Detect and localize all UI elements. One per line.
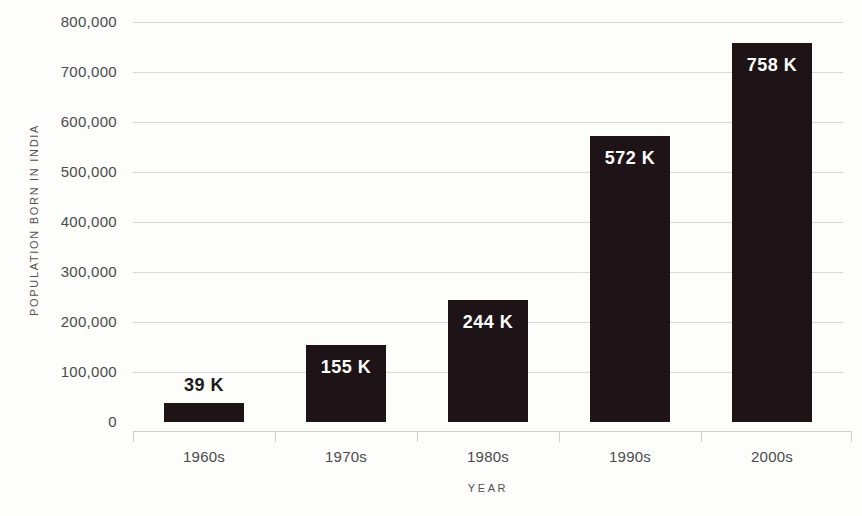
bar-group[interactable]: 572 K (559, 22, 701, 422)
bar[interactable] (164, 403, 244, 423)
x-axis-tick (851, 431, 852, 442)
y-axis-tick-label: 700,000 (7, 63, 117, 80)
x-axis-tick (275, 431, 276, 442)
y-axis-tick-label: 300,000 (7, 263, 117, 280)
bar-group[interactable]: 758 K (701, 22, 843, 422)
x-axis-tick-label: 2000s (701, 448, 843, 465)
bar-group[interactable]: 155 K (275, 22, 417, 422)
x-axis-tick (559, 431, 560, 442)
x-axis-title: YEAR (133, 482, 843, 494)
bar-value-label: 39 K (184, 375, 224, 396)
x-axis-tick (701, 431, 702, 442)
x-axis-tick-label: 1980s (417, 448, 559, 465)
x-axis-line (133, 431, 851, 432)
y-axis-tick-label: 100,000 (7, 363, 117, 380)
x-axis-tick (133, 431, 134, 442)
x-axis-tick-label: 1990s (559, 448, 701, 465)
x-axis-tick-label: 1960s (133, 448, 275, 465)
x-axis-tick-label: 1970s (275, 448, 417, 465)
bar-value-label: 758 K (747, 55, 798, 76)
bars-layer: 39 K155 K244 K572 K758 K (133, 22, 843, 422)
bar-value-label: 572 K (605, 148, 656, 169)
bar-value-label: 244 K (463, 312, 514, 333)
y-axis-tick-label: 800,000 (7, 13, 117, 30)
y-axis-tick-label: 600,000 (7, 113, 117, 130)
bar-group[interactable]: 39 K (133, 22, 275, 422)
bar[interactable] (590, 136, 670, 422)
bar-value-label: 155 K (321, 357, 372, 378)
x-axis-tick (417, 431, 418, 442)
y-axis-tick-label: 500,000 (7, 163, 117, 180)
bar-chart: POPULATION BORN IN INDIA 39 K155 K244 K5… (0, 0, 862, 516)
y-axis-tick-label: 200,000 (7, 313, 117, 330)
y-axis-tick-label: 400,000 (7, 213, 117, 230)
bar-group[interactable]: 244 K (417, 22, 559, 422)
gridline (133, 422, 843, 423)
bar[interactable] (732, 43, 812, 422)
y-axis-tick-label: 0 (7, 413, 117, 430)
